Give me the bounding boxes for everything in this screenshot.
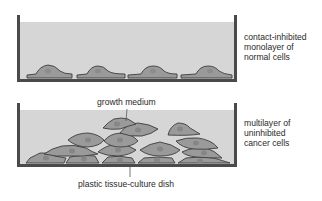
normal-cells-label: contact-inhibited monolayer of normal ce… (244, 32, 307, 62)
cancer-cells-label: multilayer of uninhibited cancer cells (244, 118, 290, 148)
normal-label-line-1: contact-inhibited (244, 32, 307, 42)
dish-right-wall (234, 103, 237, 167)
dish-bottom (17, 164, 237, 167)
growth-medium-label: growth medium (97, 97, 156, 107)
dish-bottom (17, 79, 237, 82)
dish-right-wall (234, 15, 237, 82)
dish-left-wall (17, 103, 20, 167)
dish-left-wall (17, 15, 20, 82)
cancer-label-line-2: uninhibited (244, 128, 290, 138)
dish-cancer-cells (17, 103, 237, 177)
cell-culture-diagram (0, 0, 322, 201)
dish-normal-cells (17, 15, 237, 82)
cancer-label-line-3: cancer cells (244, 138, 290, 148)
cancer-label-line-1: multilayer of (244, 118, 290, 128)
normal-label-line-3: normal cells (244, 52, 307, 62)
culture-dish-label: plastic tissue-culture dish (78, 179, 174, 189)
normal-label-line-2: monolayer of (244, 42, 307, 52)
